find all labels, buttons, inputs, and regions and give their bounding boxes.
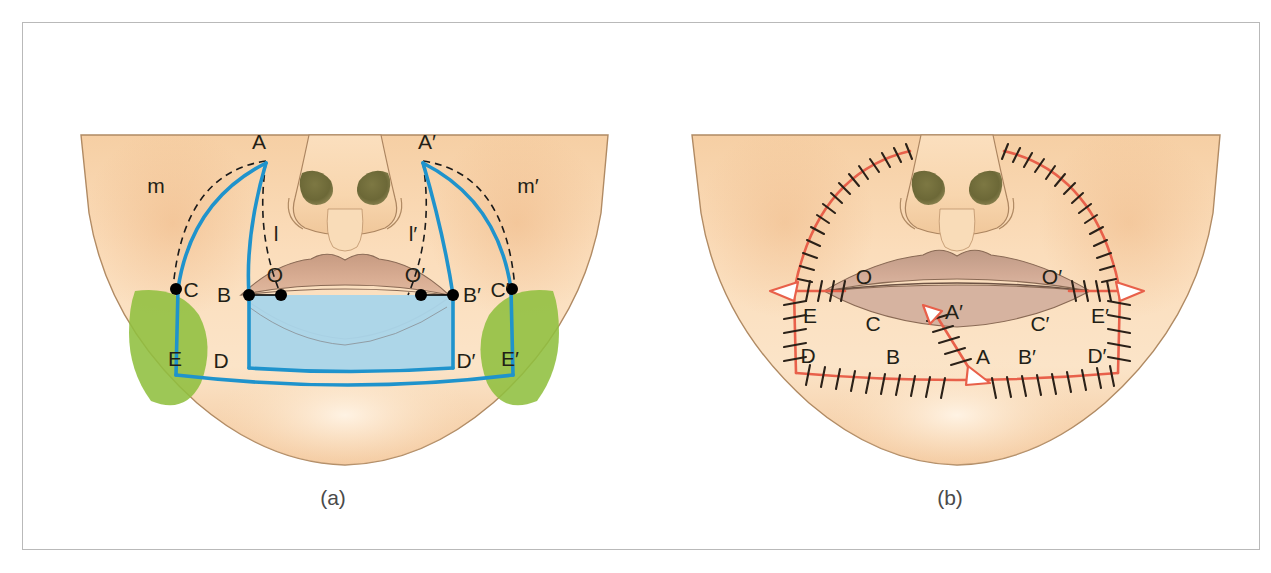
label-b-Ap: A′	[945, 300, 963, 323]
label-a-Ap: A′	[418, 130, 436, 153]
label-b-O: O	[856, 265, 872, 288]
label-b-B: B	[886, 345, 900, 368]
dot-C	[170, 283, 182, 295]
label-b-Cp: C′	[1030, 312, 1049, 335]
label-a-arc-m: m	[147, 174, 165, 197]
label-b-A: A	[976, 345, 990, 368]
figure-frame: A A′ B B′ C C′ D D′ E E′ O O′ m m′ l l′ …	[22, 22, 1260, 550]
label-a-arc-lp: l′	[409, 222, 418, 245]
label-a-Ep: E′	[501, 347, 519, 370]
label-a-Op: O′	[405, 263, 425, 286]
nose-columella	[327, 209, 363, 251]
dot-Bp	[447, 289, 459, 301]
label-a-B: B	[217, 283, 231, 306]
nose-columella	[939, 209, 975, 251]
label-b-Op: O′	[1042, 265, 1062, 288]
panel-b-postoperative-sutures: O O′ E E′ D D′ C C′ B B′ A A′ (b)	[642, 23, 1261, 551]
label-a-C: C	[183, 278, 198, 301]
label-b-C: C	[865, 312, 880, 335]
panel-a-caption: (a)	[320, 486, 346, 509]
label-b-E: E	[803, 304, 817, 327]
label-a-Cp: C′	[490, 278, 509, 301]
label-a-Dp: D′	[456, 349, 475, 372]
label-a-arc-l: l	[274, 222, 279, 245]
panel-a-preoperative-design: A A′ B B′ C C′ D D′ E E′ O O′ m m′ l l′ …	[23, 23, 642, 551]
label-b-Dp: D′	[1087, 344, 1106, 367]
dot-B	[243, 289, 255, 301]
label-a-A: A	[252, 130, 266, 153]
label-a-D: D	[213, 349, 228, 372]
label-b-Bp: B′	[1018, 345, 1036, 368]
dot-Op	[415, 289, 427, 301]
label-b-D: D	[800, 344, 815, 367]
label-a-O: O	[267, 263, 283, 286]
label-a-arc-mp: m′	[517, 174, 538, 197]
dot-O	[275, 289, 287, 301]
panel-b-caption: (b)	[937, 486, 963, 509]
label-a-E: E	[168, 347, 182, 370]
label-b-Ep: E′	[1091, 304, 1109, 327]
chin-highlight	[827, 355, 1087, 475]
label-a-Bp: B′	[463, 283, 481, 306]
